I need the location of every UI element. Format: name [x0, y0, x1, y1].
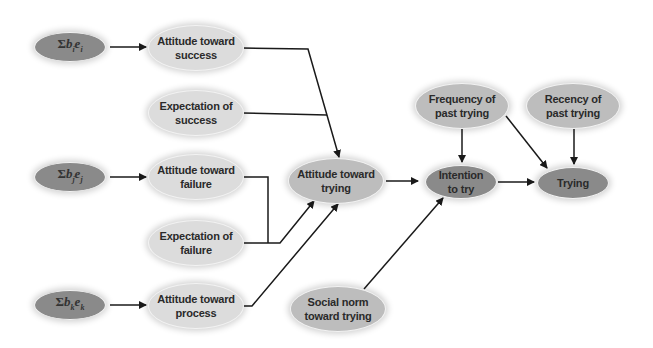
node-label: Expectation of failure [160, 229, 233, 257]
edge-frequency-to-trying [506, 116, 547, 168]
node-frequency-of-past-trying[interactable]: Frequency of past trying [415, 83, 509, 129]
formula-sum-bk-ek: Σbkek [56, 295, 85, 315]
edge-attitude-success-to-attitude-trying [242, 48, 339, 157]
node-expectation-of-success[interactable]: Expectation of success [148, 90, 244, 136]
node-trying[interactable]: Trying [537, 167, 609, 199]
edge-social-norm-to-intention [364, 198, 443, 289]
node-label: Trying [557, 176, 589, 190]
node-social-norm-toward-trying[interactable]: Social norm toward trying [290, 286, 386, 332]
node-label: Attitude toward success [157, 34, 235, 62]
edge-expectation-failure-to-attitude-trying [242, 201, 314, 243]
node-label: Frequency of past trying [429, 92, 496, 120]
node-label: Recency of past trying [545, 92, 602, 120]
node-label: Attitude toward trying [297, 167, 375, 195]
formula-sum-bj-ej: Σbjej [57, 167, 82, 187]
node-label: Attitude toward process [157, 292, 235, 320]
node-label: Expectation of success [160, 99, 233, 127]
node-attitude-toward-process[interactable]: Attitude toward process [148, 283, 244, 329]
node-label: Intention to try [439, 168, 484, 196]
node-attitude-toward-success[interactable]: Attitude toward success [148, 25, 244, 71]
node-label: Attitude toward failure [157, 163, 235, 191]
node-attitude-toward-trying[interactable]: Attitude toward trying [288, 158, 384, 204]
node-sum-bj-ej[interactable]: Σbjej [34, 162, 106, 192]
node-sum-bi-ei[interactable]: Σbiei [34, 32, 106, 62]
node-sum-bk-ek[interactable]: Σbkek [34, 290, 106, 320]
node-recency-of-past-trying[interactable]: Recency of past trying [526, 83, 620, 129]
node-expectation-of-failure[interactable]: Expectation of failure [148, 220, 244, 266]
edge-attitude-failure-join [240, 177, 268, 243]
edge-expectation-success-join [242, 113, 327, 115]
formula-sum-bi-ei: Σbiei [57, 37, 82, 57]
node-intention-to-try[interactable]: Intention to try [425, 165, 497, 199]
node-label: Social norm toward trying [304, 295, 371, 323]
node-attitude-toward-failure[interactable]: Attitude toward failure [148, 154, 244, 200]
